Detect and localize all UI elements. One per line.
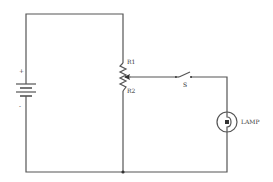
- top-wire: [26, 14, 123, 72]
- battery-icon: [16, 72, 36, 100]
- circuit-diagram: + - R1 R2 S LAMP: [0, 0, 273, 182]
- bottom-wire: [26, 100, 227, 172]
- battery-plus-label: +: [19, 67, 24, 74]
- lamp-icon: [217, 112, 237, 132]
- junction-node: [121, 170, 124, 173]
- battery-minus-label: -: [19, 102, 21, 109]
- switch-icon: [175, 72, 192, 78]
- lamp-feed-wire: [191, 77, 227, 112]
- switch-label: S: [183, 81, 187, 88]
- r1-label: R1: [127, 58, 135, 65]
- r2-label: R2: [127, 87, 136, 94]
- lamp-label: LAMP: [241, 118, 260, 125]
